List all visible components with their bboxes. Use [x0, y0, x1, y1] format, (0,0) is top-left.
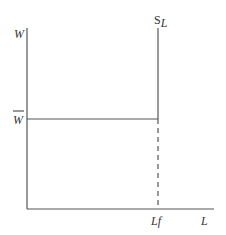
full-employment-label: Lf	[150, 214, 163, 228]
supply-curve-label-subscript: L	[160, 16, 168, 30]
x-axis-label: L	[200, 214, 208, 228]
wage-level-label: W	[13, 113, 24, 127]
labor-market-diagram: W W SL Lf L	[0, 0, 226, 235]
supply-curve-label-main: S	[154, 13, 161, 27]
y-axis-label: W	[14, 27, 25, 41]
supply-curve-label: SL	[154, 13, 168, 30]
